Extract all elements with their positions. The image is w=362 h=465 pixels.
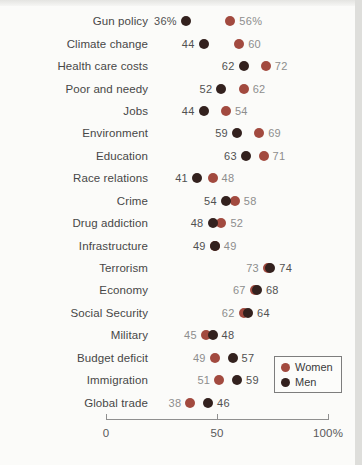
men-dot bbox=[208, 330, 218, 340]
category-label: Social Security bbox=[0, 307, 148, 319]
chart-row: Climate change4460 bbox=[0, 32, 362, 54]
page-top-edge-shading bbox=[0, 0, 362, 6]
value-label-men: 59 bbox=[215, 127, 228, 139]
men-dot bbox=[203, 398, 213, 408]
dot-plot-rows: Gun policy36%56%Climate change4460Health… bbox=[0, 10, 362, 414]
legend-item-men: Men bbox=[281, 376, 333, 388]
women-dot bbox=[254, 128, 264, 138]
value-label-women: 58 bbox=[244, 195, 257, 207]
chart-row: Global trade3846 bbox=[0, 391, 362, 413]
chart-row: Poor and needy5262 bbox=[0, 77, 362, 99]
men-dot bbox=[221, 196, 231, 206]
value-label-women: 49 bbox=[224, 240, 237, 252]
x-axis-tick bbox=[328, 414, 329, 419]
x-axis-tick bbox=[106, 414, 107, 419]
women-dot bbox=[230, 196, 240, 206]
x-axis-tick-label: 100% bbox=[313, 427, 343, 439]
men-dot bbox=[232, 128, 242, 138]
x-axis-tick-label: 0 bbox=[103, 427, 110, 439]
value-label-men: 62 bbox=[222, 60, 235, 72]
women-dot bbox=[216, 218, 226, 228]
chart-row: Race relations4148 bbox=[0, 167, 362, 189]
men-dot bbox=[228, 353, 238, 363]
men-dot bbox=[210, 241, 220, 251]
value-label-men: 54 bbox=[204, 195, 217, 207]
value-label-women: 52 bbox=[230, 217, 243, 229]
value-label-men: 74 bbox=[279, 262, 292, 274]
chart-row: Social Security6264 bbox=[0, 302, 362, 324]
women-dot bbox=[208, 173, 218, 183]
value-label-women: 38 bbox=[169, 397, 182, 409]
women-dot bbox=[261, 61, 271, 71]
women-dot bbox=[185, 398, 195, 408]
value-label-men: 68 bbox=[266, 284, 279, 296]
scanned-chart-page: Gun policy36%56%Climate change4460Health… bbox=[0, 0, 362, 465]
category-label: Economy bbox=[0, 284, 148, 296]
value-label-women: 62 bbox=[222, 307, 235, 319]
value-label-men: 41 bbox=[175, 172, 188, 184]
men-dot bbox=[243, 308, 253, 318]
men-dot bbox=[192, 173, 202, 183]
women-dot bbox=[239, 84, 249, 94]
men-dot bbox=[239, 61, 249, 71]
category-label: Race relations bbox=[0, 172, 148, 184]
legend-item-women: Women bbox=[281, 361, 333, 373]
men-dot bbox=[181, 16, 191, 26]
category-label: Drug addiction bbox=[0, 217, 148, 229]
category-label: Crime bbox=[0, 195, 148, 207]
value-label-men: 64 bbox=[257, 307, 270, 319]
category-label: Environment bbox=[0, 127, 148, 139]
value-label-women: 51 bbox=[197, 374, 210, 386]
category-label: Global trade bbox=[0, 397, 148, 409]
chart-row: Drug addiction4852 bbox=[0, 212, 362, 234]
value-label-women: 48 bbox=[222, 172, 235, 184]
men-dot bbox=[199, 39, 209, 49]
women-legend-dot bbox=[281, 363, 290, 372]
category-label: Jobs bbox=[0, 105, 148, 117]
chart-row: Jobs4454 bbox=[0, 100, 362, 122]
x-axis-tick-label: 50 bbox=[210, 427, 223, 439]
chart-row: Education6371 bbox=[0, 145, 362, 167]
category-label: Immigration bbox=[0, 374, 148, 386]
men-dot bbox=[241, 151, 251, 161]
value-label-men: 44 bbox=[182, 38, 195, 50]
legend-label: Men bbox=[295, 376, 316, 388]
value-label-men: 57 bbox=[242, 352, 255, 364]
men-dot bbox=[199, 106, 209, 116]
category-label: Infrastructure bbox=[0, 240, 148, 252]
legend-label: Women bbox=[295, 361, 333, 373]
women-dot bbox=[234, 39, 244, 49]
women-dot bbox=[214, 375, 224, 385]
category-label: Health care costs bbox=[0, 60, 148, 72]
chart-row: Gun policy36%56% bbox=[0, 10, 362, 32]
women-dot bbox=[221, 106, 231, 116]
legend: WomenMen bbox=[274, 356, 342, 393]
chart-row: Terrorism7374 bbox=[0, 257, 362, 279]
category-label: Budget deficit bbox=[0, 352, 148, 364]
value-label-women: 45 bbox=[184, 329, 197, 341]
women-dot bbox=[259, 151, 269, 161]
value-label-women: 72 bbox=[275, 60, 288, 72]
men-dot bbox=[265, 263, 275, 273]
value-label-men: 48 bbox=[222, 329, 235, 341]
chart-row: Environment5969 bbox=[0, 122, 362, 144]
category-label: Terrorism bbox=[0, 262, 148, 274]
x-axis-tick bbox=[217, 414, 218, 419]
value-label-women: 60 bbox=[248, 38, 261, 50]
value-label-men: 44 bbox=[182, 105, 195, 117]
value-label-women: 49 bbox=[193, 352, 206, 364]
x-axis-line bbox=[106, 419, 329, 420]
chart-row: Economy6768 bbox=[0, 279, 362, 301]
value-label-men: 63 bbox=[224, 150, 237, 162]
value-label-women: 73 bbox=[246, 262, 259, 274]
value-label-women: 67 bbox=[233, 284, 246, 296]
value-label-women: 69 bbox=[268, 127, 281, 139]
men-dot bbox=[252, 285, 262, 295]
value-label-men: 49 bbox=[193, 240, 206, 252]
value-label-women: 56% bbox=[239, 15, 262, 27]
chart-row: Infrastructure4949 bbox=[0, 234, 362, 256]
women-dot bbox=[225, 16, 235, 26]
chart-row: Crime5458 bbox=[0, 190, 362, 212]
category-label: Military bbox=[0, 329, 148, 341]
category-label: Gun policy bbox=[0, 15, 148, 27]
